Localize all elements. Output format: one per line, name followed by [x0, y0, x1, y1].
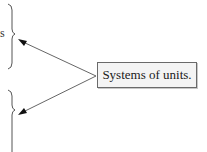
arrow-lower-line	[23, 76, 96, 112]
arrow-upper-line	[23, 42, 96, 76]
callout-label: Systems of units.	[102, 67, 191, 83]
left-fragment-text: s	[0, 26, 5, 41]
diagram-canvas: s Systems of units.	[0, 0, 207, 152]
lower-brace-icon	[8, 90, 15, 152]
arrowhead-lower-icon	[18, 108, 27, 115]
arrowhead-upper-icon	[18, 39, 27, 46]
callout-box: Systems of units.	[97, 62, 197, 88]
upper-brace-icon	[8, 4, 15, 69]
